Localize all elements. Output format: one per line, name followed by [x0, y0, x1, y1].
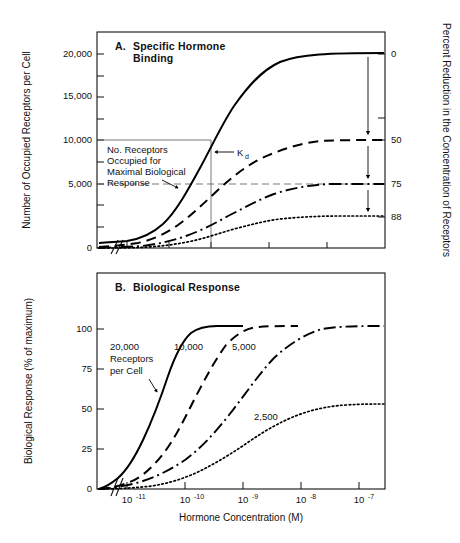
- panel-a-ytick-0: 0: [87, 242, 92, 253]
- figure-container: 0 5,000 10,000 15,000 20,000 Number of O…: [0, 0, 460, 543]
- curve-label-20000-line3: per Cell: [110, 365, 143, 376]
- annotation-line-2: Occupied for: [107, 155, 161, 166]
- panel-a-title-line1: Specific Hormone: [133, 40, 225, 52]
- panel-a-yright-75: 75: [391, 178, 402, 189]
- panel-a-left-ticks: [97, 54, 104, 248]
- panel-b-bottom-ticks: [127, 482, 359, 489]
- xtick-mantissa-2: 10: [180, 494, 191, 505]
- panel-a: 0 5,000 10,000 15,000 20,000 Number of O…: [21, 23, 452, 257]
- panel-b-ytick-0: 0: [87, 483, 92, 494]
- panel-a-title-line2: Binding: [133, 52, 173, 64]
- curve-label-10000: 10,000: [174, 341, 203, 352]
- panel-b-left-ticks: [97, 329, 104, 489]
- curve-label-20000-line1: 20,000: [110, 341, 139, 352]
- annotation-line-3: Maximal Biological: [107, 166, 186, 177]
- xtick-mantissa-1: 10: [122, 494, 133, 505]
- panel-a-right-ticks: [378, 54, 385, 217]
- panel-a-ytick-20000: 20,000: [63, 48, 92, 59]
- panel-a-y-right-axis-label: Percent Reduction in the Concentration o…: [441, 23, 452, 257]
- panel-a-ytick-5000: 5,000: [68, 178, 92, 189]
- panel-a-y-axis-label: Number of Occupied Receptors per Cell: [21, 51, 32, 228]
- curve-label-20000-line2: Receptors: [110, 353, 154, 364]
- panel-b-x-axis-label: Hormone Concentration (M): [179, 512, 303, 523]
- annotation-line-1: No. Receptors: [107, 144, 168, 155]
- xtick-mantissa-5: 10: [354, 494, 365, 505]
- panel-b-ytick-50: 50: [81, 403, 92, 414]
- xtick-exponent-4: -8: [310, 493, 316, 500]
- panel-a-yright-88: 88: [391, 211, 402, 222]
- panel-b-xtick-labels: 10 -11 10 -10 10 -9 10 -8 10 -7: [122, 493, 375, 505]
- xtick-exponent-1: -11: [136, 493, 146, 500]
- curve-a-2500: [99, 216, 384, 248]
- panel-a-yright-0: 0: [391, 48, 396, 59]
- kd-label: K: [237, 147, 244, 158]
- panel-b-y-axis-label: Biological Response (% of maximum): [23, 298, 34, 464]
- panel-b-title-text: Biological Response: [133, 281, 240, 293]
- curve-label-5000: 5,000: [232, 341, 256, 352]
- xtick-mantissa-3: 10: [238, 494, 249, 505]
- panel-b-title-letter: B.: [115, 281, 126, 293]
- curve-b-2500: [99, 404, 384, 489]
- panel-b-ytick-75: 75: [81, 363, 92, 374]
- curve-label-2500: 2,500: [254, 411, 278, 422]
- panel-a-ytick-15000: 15,000: [63, 90, 92, 101]
- panel-b-ytick-25: 25: [81, 443, 92, 454]
- xtick-exponent-5: -7: [368, 493, 374, 500]
- xtick-exponent-3: -9: [252, 493, 258, 500]
- curve-label-20000-arrow: [149, 379, 157, 392]
- annotation-line-4: Response: [107, 177, 150, 188]
- panel-a-bottom-ticks: [127, 242, 327, 248]
- panel-a-title-letter: A.: [115, 40, 126, 52]
- panel-b-ytick-100: 100: [76, 323, 92, 334]
- xtick-exponent-2: -10: [194, 493, 204, 500]
- panel-b: 0 25 50 75 100 Biological Response (% of…: [23, 273, 385, 523]
- panel-b-frame: [97, 273, 385, 489]
- panel-a-ytick-10000: 10,000: [63, 134, 92, 145]
- xtick-mantissa-4: 10: [296, 494, 307, 505]
- panel-a-yright-50: 50: [391, 134, 402, 145]
- figure-svg: 0 5,000 10,000 15,000 20,000 Number of O…: [0, 0, 460, 543]
- kd-subscript: d: [245, 153, 249, 160]
